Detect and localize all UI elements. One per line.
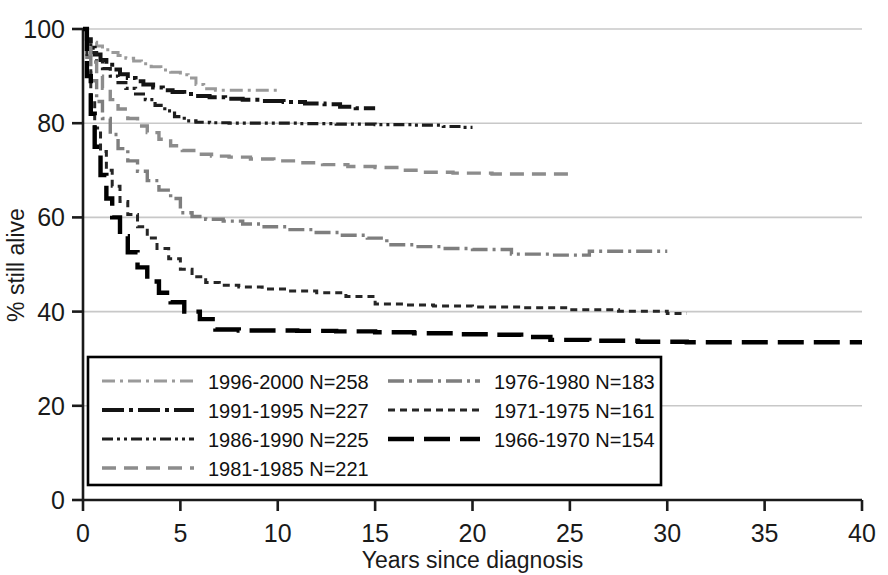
legend-label-1981-1985: 1981-1985 N=221 [208, 458, 369, 480]
y-tick-label-20: 20 [37, 392, 65, 420]
legend-label-1966-1970: 1966-1970 N=154 [494, 429, 655, 451]
legend-label-1996-2000: 1996-2000 N=258 [208, 371, 369, 393]
y-tick-label-80: 80 [37, 109, 65, 137]
x-tick-label-0: 0 [76, 519, 90, 547]
x-tick-label-20: 20 [459, 519, 487, 547]
y-tick-label-40: 40 [37, 298, 65, 326]
y-tick-label-0: 0 [51, 486, 65, 514]
legend-label-1971-1975: 1971-1975 N=161 [494, 400, 655, 422]
x-tick-label-10: 10 [264, 519, 292, 547]
x-tick-label-35: 35 [751, 519, 779, 547]
x-tick-label-15: 15 [361, 519, 389, 547]
x-tick-label-25: 25 [556, 519, 584, 547]
chart-background [0, 0, 888, 575]
y-axis-title: % still alive [3, 208, 29, 322]
chart-figure: 0204060801000510152025303540 Years since… [0, 0, 888, 575]
legend-label-1991-1995: 1991-1995 N=227 [208, 400, 369, 422]
y-tick-label-60: 60 [37, 203, 65, 231]
x-axis-title: Years since diagnosis [362, 547, 584, 573]
legend-label-1986-1990: 1986-1990 N=225 [208, 429, 369, 451]
x-tick-label-40: 40 [848, 519, 876, 547]
x-tick-label-5: 5 [173, 519, 187, 547]
survival-curve-chart: 0204060801000510152025303540 Years since… [0, 0, 888, 575]
chart-legend: 1996-2000 N=2581991-1995 N=2271986-1990 … [88, 357, 661, 485]
legend-label-1976-1980: 1976-1980 N=183 [494, 371, 655, 393]
x-tick-label-30: 30 [653, 519, 681, 547]
y-tick-label-100: 100 [23, 15, 65, 43]
